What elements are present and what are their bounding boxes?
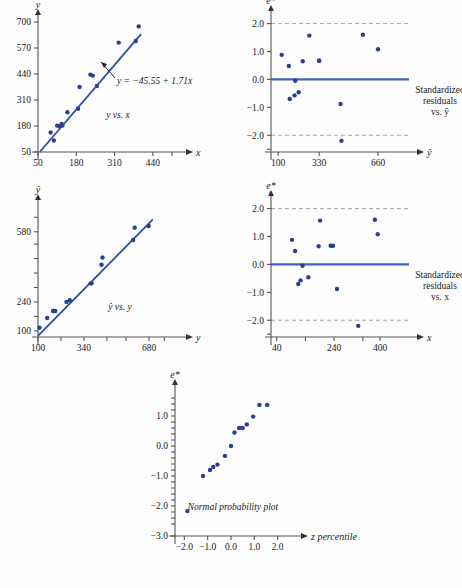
- y-tick-label: 310: [17, 95, 32, 105]
- y-axis-label: e*: [170, 369, 179, 380]
- data-point: [301, 59, 305, 63]
- chart-residuals-vs-yhat: −2.0−1.00.01.02.0100330660e*ŷStandardize…: [231, 0, 462, 190]
- x-axis-arrow: [417, 149, 424, 155]
- x-axis-arrow: [417, 334, 424, 340]
- y-tick-label: 700: [17, 17, 32, 27]
- data-point: [306, 275, 310, 279]
- data-point: [318, 218, 322, 222]
- plot-caption-line: residuals: [423, 281, 457, 291]
- data-point: [60, 123, 64, 127]
- x-axis-arrow: [186, 334, 193, 340]
- x-tick-label: 1.0: [248, 542, 260, 552]
- data-point: [290, 238, 294, 242]
- chart-yhat-vs-y-body: 100240580100340680ŷyŷ vs. y: [17, 184, 201, 353]
- data-point: [116, 40, 120, 44]
- x-tick-label: 340: [77, 343, 92, 353]
- data-point: [300, 264, 304, 268]
- data-point: [287, 64, 291, 68]
- data-point: [201, 474, 205, 478]
- data-point: [232, 430, 236, 434]
- data-point: [376, 47, 380, 51]
- data-point: [376, 232, 380, 236]
- data-point: [316, 244, 320, 248]
- x-axis-label: z percentile: [310, 531, 358, 542]
- data-point: [296, 282, 300, 286]
- data-point: [245, 422, 249, 426]
- panel-yhat-vs-y: 100240580100340680ŷyŷ vs. y: [0, 185, 231, 375]
- y-tick-label: −2.0: [247, 131, 264, 141]
- data-point: [146, 224, 150, 228]
- data-point: [134, 39, 138, 43]
- y-tick-label: 0.0: [252, 75, 264, 85]
- data-point: [339, 139, 343, 143]
- data-point: [280, 53, 284, 57]
- data-point: [317, 59, 321, 63]
- y-axis-label: ŷ: [35, 184, 41, 195]
- x-tick-label: −1.0: [199, 542, 216, 552]
- y-tick-label: 100: [17, 326, 32, 336]
- y-tick-label: 0.0: [156, 441, 168, 451]
- data-point: [265, 403, 269, 407]
- chart-residuals-vs-x: −2.0−1.00.01.02.040240400e*xStandardized…: [231, 185, 462, 375]
- data-point: [45, 316, 49, 320]
- chart-normal-probability-plot: −3.0−2.0−1.00.01.0−2.0−1.00.01.02.0e*z p…: [115, 370, 405, 588]
- x-tick-label: 240: [327, 343, 342, 353]
- x-tick-label: 0.0: [225, 542, 237, 552]
- x-tick-label: 330: [312, 158, 327, 168]
- y-tick-label: −2.0: [151, 501, 168, 511]
- plot-caption-line: vs. x: [431, 292, 449, 302]
- data-point: [37, 326, 41, 330]
- data-point: [331, 244, 335, 248]
- y-axis-label: e*: [266, 180, 275, 191]
- x-tick-label: 660: [371, 158, 386, 168]
- y-tick-label: 0.0: [252, 260, 264, 270]
- regression-line: [40, 34, 141, 152]
- data-point: [223, 454, 227, 458]
- y-tick-label: 50: [22, 147, 32, 157]
- plot-title: Normal probability plot: [187, 502, 279, 512]
- data-point: [76, 107, 80, 111]
- y-tick-label: 240: [17, 297, 32, 307]
- data-point: [307, 33, 311, 37]
- data-point: [293, 79, 297, 83]
- panel-residuals-vs-x: −2.0−1.00.01.02.040240400e*xStandardized…: [231, 185, 462, 375]
- y-tick-label: −1.0: [151, 471, 168, 481]
- plot-title: ŷ vs. y: [107, 302, 132, 312]
- x-tick-label: 400: [373, 343, 388, 353]
- data-point: [251, 414, 255, 418]
- x-tick-label: 100: [31, 343, 46, 353]
- plot-caption-line: Standardized: [415, 270, 462, 280]
- y-tick-label: 1.0: [252, 232, 264, 242]
- data-point: [338, 102, 342, 106]
- data-point: [240, 426, 244, 430]
- chart-y-vs-x-body: 5018031044057070050180310440yxy vs. xy =…: [17, 0, 201, 168]
- data-point: [48, 130, 52, 134]
- data-point: [77, 85, 81, 89]
- x-tick-label: 680: [142, 343, 157, 353]
- y-tick-label: 1.0: [252, 47, 264, 57]
- chart-residuals-vs-x-body: −2.0−1.00.01.02.040240400e*xStandardized…: [247, 180, 462, 353]
- data-point: [211, 465, 215, 469]
- data-point: [229, 444, 233, 448]
- x-axis-label: x: [426, 332, 432, 343]
- y-tick-label: −1.0: [247, 288, 264, 298]
- x-tick-label: 2.0: [272, 542, 284, 552]
- data-point: [215, 462, 219, 466]
- y-tick-label: −3.0: [151, 531, 168, 541]
- y-axis-label: e*: [266, 0, 275, 6]
- data-point: [361, 33, 365, 37]
- chart-residuals-vs-yhat-body: −2.0−1.00.01.02.0100330660e*ŷStandardize…: [247, 0, 462, 168]
- data-point: [137, 24, 141, 28]
- y-tick-label: 180: [17, 121, 32, 131]
- chart-yhat-vs-y: 100240580100340680ŷyŷ vs. y: [0, 185, 231, 375]
- data-point: [132, 225, 136, 229]
- data-point: [293, 249, 297, 253]
- data-point: [52, 138, 56, 142]
- panel-y-vs-x: 5018031044057070050180310440yxy vs. xy =…: [0, 0, 231, 190]
- x-axis-arrow: [186, 149, 193, 155]
- x-tick-label: 310: [107, 158, 122, 168]
- plot-caption-line: residuals: [423, 96, 457, 106]
- x-tick-label: −2.0: [176, 542, 193, 552]
- y-tick-label: −1.0: [247, 103, 264, 113]
- plot-caption-line: vs. ŷ: [431, 107, 449, 117]
